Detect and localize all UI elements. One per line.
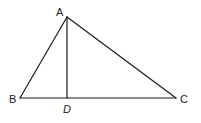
segment-ac: [67, 17, 176, 98]
label-d: D: [63, 103, 71, 115]
segment-ab: [20, 17, 67, 98]
label-a: A: [56, 6, 64, 18]
diagram-svg: A B C D: [0, 0, 201, 123]
triangle-diagram: A B C D: [0, 0, 201, 123]
label-b: B: [9, 93, 16, 105]
label-c: C: [180, 93, 188, 105]
